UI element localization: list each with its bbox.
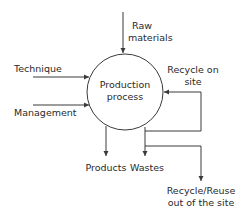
- recycle-on-site-label-line1: Recycle on: [167, 64, 218, 75]
- recycle-reuse-label-line1: Recycle/Reuse: [167, 185, 236, 196]
- management-label: Management: [14, 107, 77, 118]
- products-label: Products: [85, 162, 126, 173]
- wastes-output: Wastes: [130, 127, 164, 173]
- process-label-line2: process: [107, 91, 144, 102]
- diagram-canvas: Production process Raw materials Techniq…: [0, 0, 244, 218]
- recycle-reuse-label-line2: out of the site: [168, 197, 235, 208]
- recycle-on-site-loop: Recycle on site: [145, 64, 219, 131]
- technique-input: Technique: [13, 63, 89, 77]
- technique-label: Technique: [13, 63, 62, 74]
- products-output: Products: [85, 126, 126, 173]
- recycle-reuse-offsite-output: Recycle/Reuse out of the site: [145, 146, 235, 208]
- production-process-node: Production process: [87, 54, 163, 130]
- process-label-line1: Production: [100, 79, 151, 90]
- recycle-on-site-label-line2: site: [184, 76, 201, 87]
- raw-materials-input: Raw materials: [123, 12, 173, 53]
- wastes-label: Wastes: [130, 162, 164, 173]
- raw-materials-label-line1: Raw: [132, 20, 152, 31]
- recycle-on-site-arrow: [145, 92, 201, 131]
- management-input: Management: [14, 105, 89, 118]
- raw-materials-label-line2: materials: [128, 32, 173, 43]
